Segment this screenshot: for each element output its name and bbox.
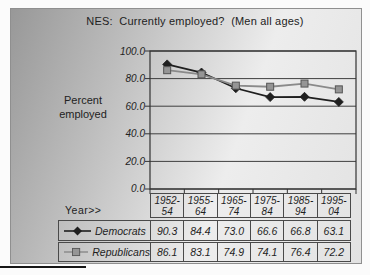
footnote-rule (0, 266, 86, 268)
democrats-value: 84.4 (183, 220, 217, 241)
year-column-header: 1965-74 (217, 193, 251, 218)
democrats-value: 66.8 (283, 220, 317, 241)
democrats-legend-cell: Democrats (58, 220, 151, 241)
y-tick-label: 40.0 (107, 128, 145, 139)
republicans-legend-label: Republicans (92, 246, 150, 258)
x-axis-label: Year>> (65, 204, 101, 216)
republicans-value: 76.4 (283, 242, 317, 262)
democrats-value: 73.0 (217, 220, 251, 241)
democrats-data-row: Democrats 90.3 84.4 73.0 66.6 66.8 63.1 (58, 220, 356, 241)
republicans-value: 74.1 (250, 242, 284, 262)
year-column-header: 1952-54 (150, 193, 184, 218)
republicans-value: 72.2 (317, 242, 351, 262)
republicans-line-marker-icon (64, 247, 88, 257)
year-column-header: 1985-94 (283, 193, 317, 218)
y-axis-title-line2: employed (29, 107, 137, 121)
y-tick-label: 0.0 (107, 183, 145, 194)
y-tick-label: 20.0 (107, 156, 145, 167)
year-column-header: 1995-04 (317, 193, 351, 218)
chart-area: NES: Currently employed? (Men all ages) … (10, 8, 362, 264)
year-header-row: 1952-54 1955-64 1965-74 1975-84 1985-94 … (150, 193, 356, 218)
year-column-header: 1975-84 (250, 193, 284, 218)
democrats-value: 63.1 (317, 220, 351, 241)
y-tick-label: 80.0 (107, 73, 145, 84)
republicans-legend-cell: Republicans (58, 242, 151, 262)
y-axis-title: Percent employed (29, 93, 137, 121)
democrats-legend-label: Democrats (95, 225, 146, 237)
democrats-value: 90.3 (150, 220, 184, 241)
year-column-header: 1955-64 (183, 193, 217, 218)
democrats-value: 66.6 (250, 220, 284, 241)
republicans-value: 83.1 (183, 242, 217, 262)
republicans-value: 86.1 (150, 242, 184, 262)
y-axis-title-line1: Percent (29, 93, 137, 107)
republicans-value: 74.9 (217, 242, 251, 262)
democrats-line-marker-icon (64, 226, 91, 236)
republicans-data-row: Republicans 86.1 83.1 74.9 74.1 76.4 72.… (58, 242, 356, 262)
y-tick-label: 100.0 (107, 46, 145, 57)
